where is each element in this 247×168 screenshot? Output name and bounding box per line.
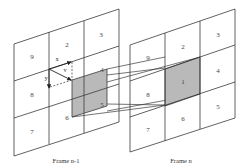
dash-horizontal bbox=[50, 80, 72, 87]
cell-label-7: 7 bbox=[30, 128, 34, 136]
cell-label-2: 2 bbox=[65, 41, 69, 49]
cell-label-7: 7 bbox=[146, 126, 150, 134]
vector-x-arrow bbox=[49, 62, 71, 69]
cell-label-3: 3 bbox=[99, 31, 103, 39]
vector-x-label: x bbox=[55, 55, 59, 62]
cell-label-4: 4 bbox=[100, 66, 104, 74]
vector-v-label: v bbox=[63, 66, 67, 73]
cell-label-5: 5 bbox=[216, 103, 220, 111]
displaced-block bbox=[72, 69, 107, 117]
cell-label-1: 1 bbox=[181, 78, 185, 86]
cell-label-3: 3 bbox=[216, 31, 220, 39]
vector-v-arrow bbox=[49, 69, 71, 80]
cell-label-5: 5 bbox=[100, 101, 104, 109]
cell-label-8: 8 bbox=[30, 91, 34, 99]
cell-label-9: 9 bbox=[30, 53, 34, 61]
cell-label-4: 4 bbox=[216, 67, 220, 75]
cell-label-9: 9 bbox=[146, 54, 150, 62]
cell-label-2: 2 bbox=[181, 43, 185, 51]
cell-label-6: 6 bbox=[65, 114, 69, 122]
cell-label-8: 8 bbox=[146, 91, 150, 99]
motion-diagram: 9 2 3 8 4 7 6 5 x y v Frame n-1 bbox=[0, 0, 247, 168]
frame-prev-caption: Frame n-1 bbox=[53, 157, 80, 164]
frame-prev: 9 2 3 8 4 7 6 5 x y v Frame n-1 bbox=[14, 9, 119, 164]
frame-curr: 9 2 3 8 1 4 7 6 5 Frame n bbox=[130, 9, 235, 164]
cell-label-6: 6 bbox=[181, 115, 185, 123]
vector-y-label: y bbox=[44, 74, 48, 81]
frame-curr-caption: Frame n bbox=[170, 157, 192, 164]
